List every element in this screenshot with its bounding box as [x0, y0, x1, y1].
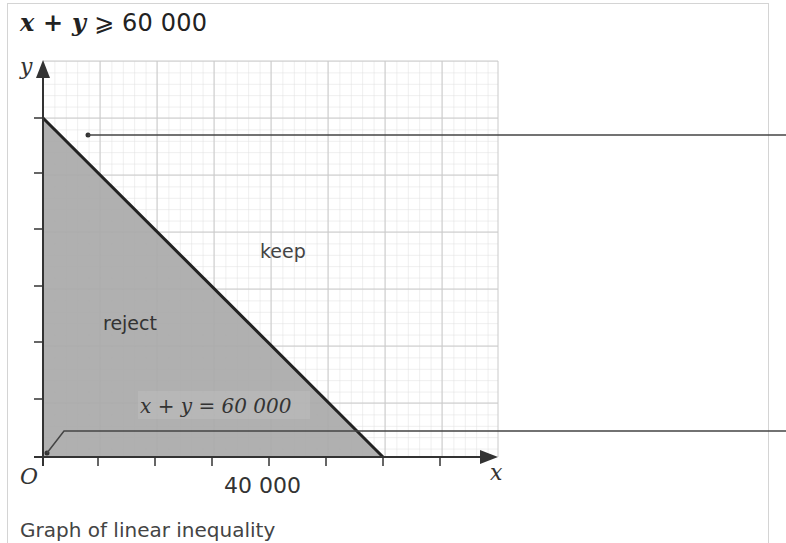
keep-region-label: keep	[260, 240, 306, 262]
reject-region-label: reject	[103, 312, 157, 334]
x-tick-label-40000: 40 000	[224, 473, 301, 498]
caption-text: Graph of linear inequality	[20, 518, 275, 542]
y-axis-label: y	[19, 54, 33, 79]
boundary-line-label: x + y = 60 000	[140, 394, 292, 418]
x-axis-label: x	[490, 460, 503, 485]
origin-label: O	[20, 464, 38, 489]
